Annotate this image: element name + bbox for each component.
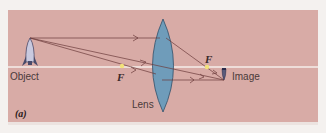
- focal-point-left: [120, 64, 124, 68]
- image-rocket-icon: [222, 68, 226, 80]
- lens-label: Lens: [132, 99, 154, 110]
- focal-point-right: [205, 65, 209, 69]
- ray-diagram: [0, 0, 326, 133]
- focal-point-right-label: F: [205, 53, 212, 65]
- light-rays: [30, 35, 224, 83]
- object-label: Object: [10, 71, 39, 82]
- object-rocket-icon: [22, 38, 38, 66]
- focal-point-left-label: F: [117, 71, 124, 83]
- figure-caption: (a): [15, 108, 27, 119]
- image-label: Image: [232, 71, 260, 82]
